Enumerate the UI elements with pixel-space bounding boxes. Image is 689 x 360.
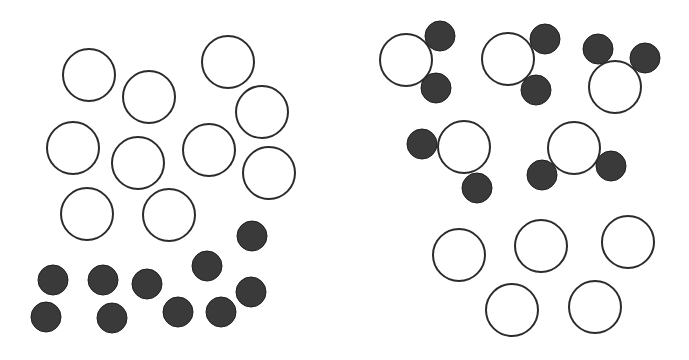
open-circle-particle xyxy=(47,122,99,174)
open-circle-particle xyxy=(243,147,295,199)
open-circle-particle xyxy=(202,36,254,88)
leftover-open-circle xyxy=(486,284,538,336)
dark-circle-particle xyxy=(407,129,437,159)
dark-circle-particle xyxy=(527,160,557,190)
open-circle-particle xyxy=(112,137,164,189)
dark-circle-particle xyxy=(236,277,266,307)
open-circle-particle xyxy=(589,61,641,113)
dark-circle-particle xyxy=(530,24,560,54)
open-circle-particle xyxy=(438,121,490,173)
dark-circle-particle xyxy=(583,34,613,64)
dark-circle-particle xyxy=(88,265,118,295)
dark-circle-particle xyxy=(425,21,455,51)
dark-circle-particle xyxy=(97,303,127,333)
dark-circle-particle xyxy=(206,297,236,327)
dark-circle-particle xyxy=(38,265,68,295)
bonded-molecule xyxy=(527,122,626,190)
diagram-canvas xyxy=(0,0,689,360)
bonded-molecule xyxy=(380,21,455,103)
open-circle-particle xyxy=(548,122,600,174)
open-circle-particle xyxy=(380,34,432,86)
right-panel-products xyxy=(380,21,660,336)
open-circle-particle xyxy=(61,188,113,240)
bonded-molecule xyxy=(407,121,492,203)
dark-circle-particle xyxy=(163,297,193,327)
bonded-molecule xyxy=(482,24,560,105)
open-circle-particle xyxy=(236,86,288,138)
dark-circle-particle xyxy=(192,251,222,281)
left-panel-reactants xyxy=(31,36,295,333)
leftover-open-circle xyxy=(602,216,654,268)
dark-circle-particle xyxy=(237,221,267,251)
dark-circle-particle xyxy=(132,269,162,299)
dark-circle-particle xyxy=(31,302,61,332)
open-circle-particle xyxy=(143,189,195,241)
leftover-open-circle xyxy=(515,220,567,272)
particle-diagram xyxy=(0,0,689,360)
dark-circle-particle xyxy=(462,173,492,203)
open-circle-particle xyxy=(63,49,115,101)
leftover-open-circle xyxy=(433,229,485,281)
open-circle-particle xyxy=(123,71,175,123)
leftover-open-circle xyxy=(569,281,621,333)
dark-circle-particle xyxy=(596,151,626,181)
open-circle-particle xyxy=(183,124,235,176)
open-circle-particle xyxy=(482,33,534,85)
bonded-molecule xyxy=(583,34,660,113)
